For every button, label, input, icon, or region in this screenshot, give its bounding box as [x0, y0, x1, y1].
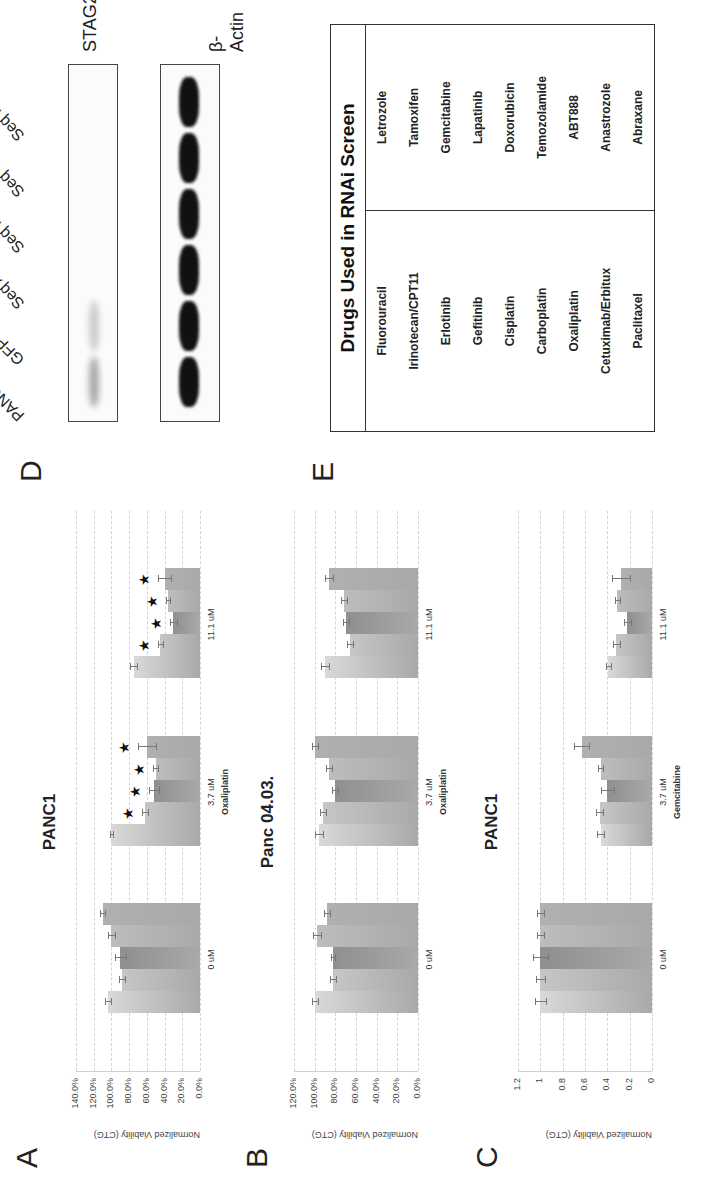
- error-cap: [330, 911, 331, 918]
- y-tick-label: 80.0%: [329, 1078, 339, 1122]
- y-tick-label: 0.8: [557, 1078, 567, 1122]
- lane-label: GFP: [0, 333, 28, 369]
- plot-area: ★★★★★★★★: [76, 511, 200, 1072]
- drug-name: Cisplatin: [494, 210, 526, 431]
- drug-table-row: FluorouracilLetrozole: [366, 25, 399, 432]
- error-bar: [624, 623, 631, 624]
- error-cap: [323, 831, 324, 838]
- error-cap: [545, 977, 546, 984]
- y-tick-label: 0.2: [624, 1078, 634, 1122]
- protein-band: [89, 357, 99, 407]
- bar: [608, 657, 652, 679]
- error-cap: [110, 831, 111, 838]
- error-cap: [574, 743, 575, 750]
- error-cap: [115, 933, 116, 940]
- error-bar: [138, 746, 156, 747]
- bar: [325, 657, 418, 679]
- error-cap: [603, 765, 604, 772]
- drug-name: Irinotecan/CPT11: [398, 210, 430, 431]
- drug-table-row: PaclitaxelAbraxane: [622, 25, 655, 432]
- error-cap: [341, 598, 342, 605]
- error-cap: [313, 933, 314, 940]
- error-cap: [612, 576, 613, 583]
- error-cap: [153, 765, 154, 772]
- drug-name: Anastrozole: [590, 25, 622, 211]
- blot-row-label: β-Actin: [206, 0, 248, 52]
- bar-group: [294, 904, 418, 1014]
- protein-band: [179, 133, 199, 183]
- bar-chart-panel-c: PANC1Normalized Viability (CTG)00.20.40.…: [482, 502, 692, 1142]
- bar: [335, 780, 418, 802]
- bar-group: ★★★★: [76, 736, 200, 846]
- error-cap: [105, 999, 106, 1006]
- error-cap: [170, 620, 171, 627]
- y-tick-label: 0.0%: [194, 1078, 204, 1122]
- bar: [134, 657, 200, 679]
- error-cap: [100, 911, 101, 918]
- bar: [122, 970, 200, 992]
- lane-label: Seq A: [0, 270, 28, 313]
- y-tick-label: 100.0%: [105, 1078, 115, 1122]
- significance-star: ★: [120, 807, 136, 820]
- y-tick-label: 100.0%: [309, 1078, 319, 1122]
- significance-star: ★: [131, 763, 147, 776]
- bar: [582, 736, 652, 758]
- error-cap: [138, 743, 139, 750]
- bar: [315, 992, 418, 1014]
- drug-name: Temozolamide: [526, 25, 558, 211]
- error-bar: [536, 980, 545, 981]
- drug-table-row: OxaliplatinABT888: [558, 25, 590, 432]
- error-bar: [597, 834, 604, 835]
- bar: [540, 970, 652, 992]
- error-cap: [126, 955, 127, 962]
- significance-star: ★: [127, 785, 143, 798]
- error-cap: [148, 809, 149, 816]
- error-cap: [320, 809, 321, 816]
- error-cap: [589, 743, 590, 750]
- bar-group: [76, 904, 200, 1014]
- error-cap: [324, 911, 325, 918]
- bar: [327, 904, 418, 926]
- error-cap: [630, 576, 631, 583]
- error-cap: [546, 999, 547, 1006]
- drug-table-title: Drugs Used in RNAi Screen: [331, 25, 366, 432]
- bar: ★: [147, 736, 200, 758]
- bar-group: [518, 569, 652, 679]
- x-category-label: 11.1 uM: [424, 570, 434, 680]
- error-cap: [156, 743, 157, 750]
- error-cap: [108, 933, 109, 940]
- bar: [315, 736, 418, 758]
- protein-band: [179, 357, 199, 407]
- error-bar: [574, 746, 590, 747]
- y-tick-label: 60.0%: [141, 1078, 151, 1122]
- blot-strip: [68, 64, 118, 422]
- error-cap: [177, 620, 178, 627]
- error-cap: [119, 977, 120, 984]
- drug-name: Fluorouracil: [366, 210, 399, 431]
- error-bar: [537, 914, 544, 915]
- protein-band: [179, 189, 199, 239]
- error-cap: [321, 664, 322, 671]
- x-category-label: 11.1 uM: [206, 570, 216, 680]
- drug-name: Oxaliplatin: [558, 210, 590, 431]
- drug-table-row: CarboplatinTemozolamide: [526, 25, 558, 432]
- y-tick-label: 0.6: [579, 1078, 589, 1122]
- bar-chart-panel-a: PANC1Normalized Viability (CTG)★★★★★★★★0…: [40, 502, 240, 1142]
- gridline: [418, 511, 419, 1071]
- error-cap: [631, 620, 632, 627]
- error-bar: [596, 812, 603, 813]
- error-cap: [318, 999, 319, 1006]
- error-cap: [326, 809, 327, 816]
- bar: [319, 824, 418, 846]
- error-cap: [620, 642, 621, 649]
- bar: ★: [165, 569, 200, 591]
- x-axis-title: Gemcitabine: [672, 737, 682, 847]
- bar: ★: [168, 591, 200, 613]
- drug-table-row: Irinotecan/CPT11Tamoxifen: [398, 25, 430, 432]
- error-bar: [537, 936, 544, 937]
- bar: [627, 613, 652, 635]
- error-cap: [166, 598, 167, 605]
- bar: ★: [173, 613, 200, 635]
- error-cap: [620, 598, 621, 605]
- y-tick-label: 60.0%: [350, 1078, 360, 1122]
